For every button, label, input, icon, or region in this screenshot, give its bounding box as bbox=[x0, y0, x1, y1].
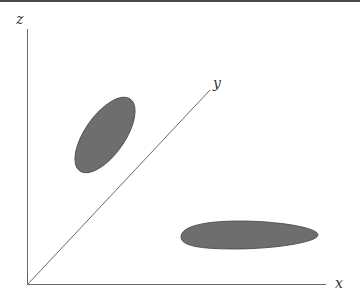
y-axis-label: y bbox=[212, 75, 222, 91]
upper-left-ellipse bbox=[63, 87, 146, 182]
x-axis-label: x bbox=[335, 275, 343, 291]
diagram-canvas: z y x bbox=[0, 0, 360, 299]
z-axis-label: z bbox=[15, 11, 24, 27]
axes-figure: z y x bbox=[0, 0, 360, 299]
lower-right-ellipse bbox=[181, 221, 318, 249]
